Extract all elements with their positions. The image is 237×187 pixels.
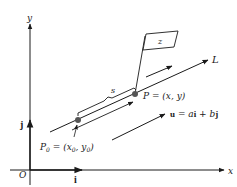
i-label: i [74, 174, 77, 185]
vector-u-label: u = ai + bj [170, 109, 218, 119]
point-p [132, 91, 138, 97]
vector-u: u = ai + bj [112, 109, 218, 140]
direction-arrow [146, 66, 172, 77]
parameter-flag: z [135, 31, 178, 94]
point-p0 [75, 117, 81, 123]
j-label: j [19, 119, 23, 130]
point-p0-label: P0 = (x0, y0) [39, 142, 94, 153]
arc-length-brace: s [78, 86, 136, 116]
x-axis: x [10, 166, 233, 176]
parametric-line-diagram: y x O j i L s z P = (x [0, 0, 237, 187]
unit-vector-j: j [19, 119, 30, 170]
origin-label: O [19, 170, 27, 180]
line-L-label: L [211, 54, 219, 65]
displacement-arrow [72, 102, 133, 130]
arc-length-label: s [111, 86, 115, 95]
x-axis-label: x [228, 166, 233, 176]
flag-label: z [157, 37, 163, 46]
unit-vector-i: i [30, 170, 82, 185]
p0-pointer [74, 125, 77, 137]
y-axis-label: y [26, 13, 33, 23]
point-p-label: P = (x, y) [142, 91, 186, 101]
